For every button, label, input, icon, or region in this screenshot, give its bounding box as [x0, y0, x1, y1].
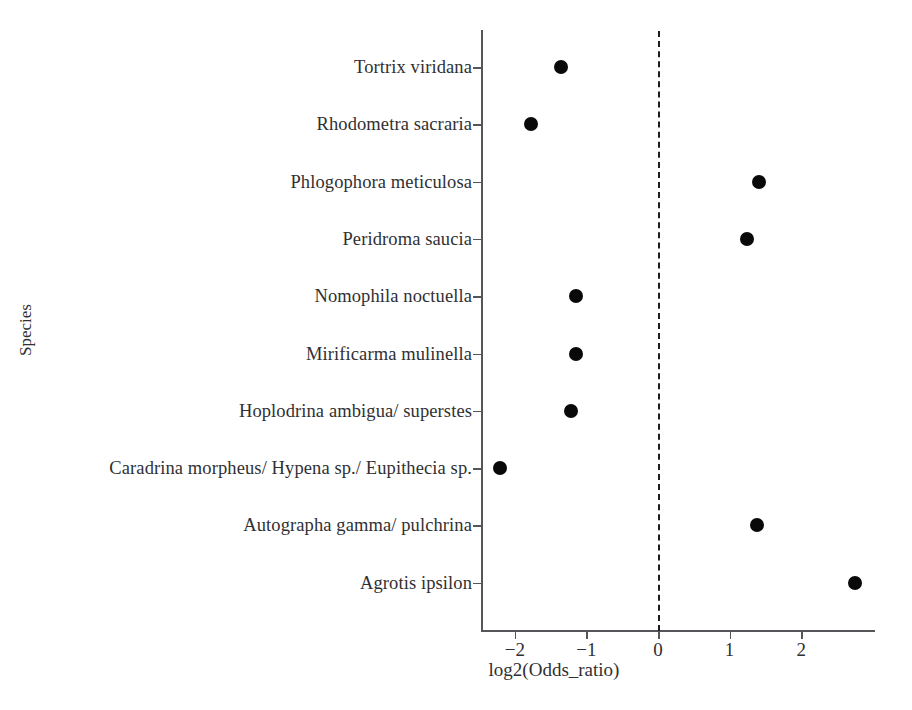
- x-axis-title-text: log2(Odds_ratio): [489, 659, 620, 681]
- x-axis-tick: [515, 631, 517, 639]
- species-label: Nomophila noctuella: [314, 287, 472, 306]
- data-point: [564, 404, 578, 418]
- scatter-chart: Tortrix viridanaRhodometra sacrariaPhlog…: [0, 0, 912, 710]
- x-axis-tick-label: 2: [796, 639, 806, 661]
- x-axis-tick-label: 0: [653, 639, 663, 661]
- data-point: [750, 518, 764, 532]
- x-axis-tick-label: −1: [576, 639, 596, 661]
- species-label: Hoplodrina ambigua/ superstes: [239, 402, 472, 421]
- species-label: Caradrina morpheus/ Hypena sp./ Eupithec…: [109, 459, 472, 478]
- y-axis-tick: [473, 411, 481, 413]
- data-point: [848, 576, 862, 590]
- data-point: [569, 289, 583, 303]
- x-axis-tick-label: 1: [725, 639, 735, 661]
- species-label: Tortrix viridana: [354, 58, 472, 77]
- species-label: Phlogophora meticulosa: [290, 172, 472, 191]
- y-axis-title: Species: [16, 304, 36, 356]
- x-axis-tick: [658, 631, 660, 639]
- x-axis-title: log2(Odds_ratio): [0, 659, 912, 681]
- y-axis-tick: [473, 583, 481, 585]
- species-label: Peridroma saucia: [342, 230, 472, 249]
- species-label: Autographa gamma/ pulchrina: [243, 516, 472, 535]
- data-point: [554, 60, 568, 74]
- y-axis-tick: [473, 182, 481, 184]
- x-axis-tick: [586, 631, 588, 639]
- x-axis-tick: [730, 631, 732, 639]
- data-point: [740, 232, 754, 246]
- zero-reference-line: [658, 31, 660, 631]
- y-axis-tick: [473, 525, 481, 527]
- data-point: [524, 117, 538, 131]
- y-axis-tick: [473, 124, 481, 126]
- data-point: [569, 347, 583, 361]
- species-label: Rhodometra sacraria: [317, 115, 472, 134]
- y-axis-tick: [473, 468, 481, 470]
- species-label: Mirificarma mulinella: [306, 344, 472, 363]
- data-point: [493, 461, 507, 475]
- x-axis-tick: [801, 631, 803, 639]
- species-label: Agrotis ipsilon: [360, 573, 472, 592]
- x-axis-tick-label: −2: [505, 639, 525, 661]
- y-axis-spine: [481, 30, 483, 631]
- x-axis-spine: [481, 630, 875, 632]
- y-axis-tick: [473, 296, 481, 298]
- y-axis-tick: [473, 239, 481, 241]
- y-axis-tick: [473, 354, 481, 356]
- y-axis-tick: [473, 67, 481, 69]
- data-point: [752, 175, 766, 189]
